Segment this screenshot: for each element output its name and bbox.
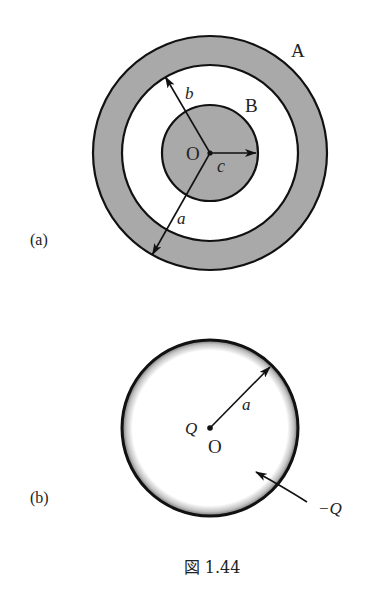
panel-b-tag: (b) <box>30 489 49 507</box>
label-radius-b: b <box>185 84 194 103</box>
label-conductor-a: A <box>291 40 305 61</box>
label-shell-charge: −Q <box>318 499 342 518</box>
center-point-a <box>207 150 212 155</box>
panel-b: Q O a −Q (b) <box>30 340 342 518</box>
figure-caption: 図 1.44 <box>184 558 241 577</box>
figure-canvas: O c b a B A (a) Q O a −Q (b) 図 1.44 <box>0 0 367 601</box>
point-charge-q <box>207 425 213 431</box>
label-center-o-b: O <box>208 436 222 457</box>
panel-a: O c b a B A (a) <box>30 36 327 270</box>
label-charge-q: Q <box>185 419 197 438</box>
label-radius-a-b: a <box>242 395 251 414</box>
label-radius-a: a <box>177 209 186 228</box>
label-center-o-a: O <box>186 143 200 164</box>
label-radius-c: c <box>217 156 225 176</box>
label-conductor-b: B <box>245 95 258 116</box>
panel-a-tag: (a) <box>30 231 48 249</box>
